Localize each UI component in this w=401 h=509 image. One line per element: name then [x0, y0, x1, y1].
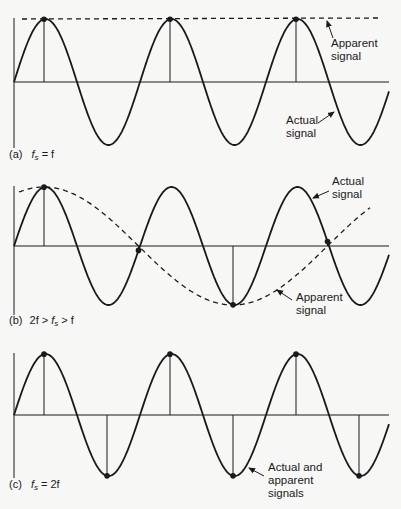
actual-signal-label: Actual signal [332, 175, 367, 200]
sample-point [293, 351, 299, 357]
apparent-signal-line [22, 18, 378, 19]
sample-point [41, 16, 47, 22]
sample-point [136, 248, 142, 254]
sample-point [41, 351, 47, 357]
sample-point [230, 302, 236, 308]
sample-point [293, 16, 299, 22]
apparent-arrow-icon [327, 21, 333, 38]
panel-b: Actual signal Apparent signal (b) 2f > f… [9, 175, 389, 328]
sample-point [325, 239, 331, 245]
actual-apparent-signals-label: Actual and apparent signals [268, 461, 326, 499]
apparent-signal-label: Apparent signal [331, 37, 381, 62]
panel-a: Apparent signal Actual signal (a) fs = f [9, 16, 389, 162]
sample-point [104, 473, 110, 479]
panel-a-caption: (a) fs = f [9, 148, 55, 162]
apparent-signal-label: Apparent signal [296, 291, 346, 316]
sample-point [230, 473, 236, 479]
sample-point [167, 16, 173, 22]
panel-b-caption: (b) 2f > fs > f [9, 314, 75, 328]
apparent-arrow-icon [277, 290, 292, 300]
actual-signal-label: Actual signal [286, 114, 321, 139]
panel-c-caption: (c) fs = 2f [9, 478, 61, 492]
sample-point [356, 473, 362, 479]
sample-point [167, 351, 173, 357]
sample-stems [44, 19, 296, 82]
sample-point [41, 184, 47, 190]
actual-apparent-arrow-icon [249, 468, 264, 476]
panel-c: Actual and apparent signals (c) fs = 2f [9, 351, 389, 499]
actual-arrow-icon [313, 191, 329, 198]
aliasing-figure: Apparent signal Actual signal (a) fs = f… [0, 0, 401, 509]
